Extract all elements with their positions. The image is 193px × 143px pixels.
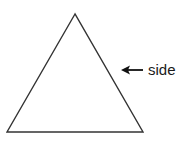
triangle-shape: [7, 14, 143, 132]
side-label: side: [148, 61, 176, 79]
arrow-left-icon: [121, 66, 143, 75]
